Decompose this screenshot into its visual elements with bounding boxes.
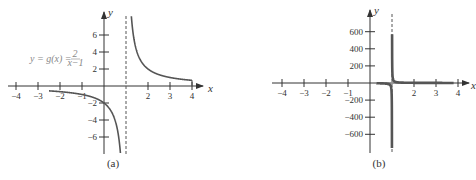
y-tick-label: 600 — [350, 27, 364, 37]
figure: xy−4−3−2−1234−6−4−2246(a)y = g(x) =2x−1 … — [0, 0, 476, 180]
y-tick-label: −6 — [87, 132, 97, 142]
y-tick-label: −600 — [344, 129, 363, 139]
function-annotation: y = g(x) =2x−1 — [29, 48, 84, 68]
y-tick-label: 2 — [93, 64, 98, 74]
annotation-lhs: y = g(x) = — [29, 53, 72, 65]
y-tick-label: 400 — [350, 44, 364, 54]
y-tick-label: 6 — [93, 30, 98, 40]
y-tick-label: −4 — [87, 115, 97, 125]
y-tick-label: −400 — [344, 112, 363, 122]
x-tick-label: 4 — [456, 88, 461, 98]
y-tick-label: 200 — [350, 61, 364, 71]
x-tick-label: 3 — [168, 91, 173, 101]
x-axis-label: x — [207, 82, 213, 94]
x-tick-label: 3 — [434, 88, 439, 98]
annotation-denominator: x−1 — [66, 57, 83, 68]
x-tick-label: 2 — [412, 88, 417, 98]
y-tick-label: 4 — [93, 47, 98, 57]
panel-caption: (b) — [373, 157, 386, 170]
x-tick-label: −4 — [11, 91, 21, 101]
x-tick-label: −4 — [277, 88, 287, 98]
y-axis-label: y — [107, 6, 113, 18]
x-axis-label: x — [470, 79, 476, 91]
x-tick-label: 4 — [190, 91, 195, 101]
y-tick-label: −2 — [87, 98, 97, 108]
chart-a: xy−4−3−2−1234−6−4−2246(a)y = g(x) =2x−1 — [8, 6, 213, 170]
x-tick-label: −3 — [299, 88, 309, 98]
chart-b: xy−4−3−2−1234−600−400−200200400600(b) — [272, 4, 476, 170]
x-tick-label: −3 — [33, 91, 43, 101]
y-axis-label: y — [373, 4, 379, 16]
curve-right-branch — [392, 34, 454, 83]
panel-caption: (a) — [107, 157, 120, 170]
curve-left-branch — [377, 83, 392, 148]
y-tick-label: −200 — [344, 95, 363, 105]
curve-right-branch — [131, 16, 192, 80]
x-tick-label: 2 — [146, 91, 151, 101]
x-tick-label: −2 — [321, 88, 331, 98]
